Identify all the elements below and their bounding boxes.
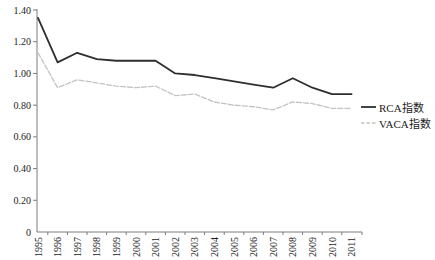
x-tick-label: 2003 <box>189 237 200 257</box>
x-tick-label: 2006 <box>248 237 259 257</box>
chart-legend: RCA指数 VACA指数 <box>361 99 431 130</box>
legend-item-rca: RCA指数 <box>361 99 431 114</box>
x-tick-label: 2009 <box>307 237 318 257</box>
y-tick-label: 0.60 <box>14 131 32 142</box>
y-tick-label: 1.40 <box>14 5 32 16</box>
x-tick-label: 2011 <box>346 237 357 257</box>
legend-item-vaca: VACA指数 <box>361 115 431 130</box>
x-tick-label: 2000 <box>131 237 142 257</box>
x-tick-label: 1997 <box>72 237 83 257</box>
x-tick-label: 2004 <box>209 237 220 257</box>
x-tick-label: 2010 <box>327 237 338 257</box>
y-tick-label: 0.80 <box>14 100 32 111</box>
y-tick-label: 1.20 <box>14 36 32 47</box>
vaca-series-line <box>38 53 352 110</box>
x-tick-label: 2005 <box>229 237 240 257</box>
line-chart-canvas: 1.401.201.000.800.600.400.20019951996199… <box>0 0 435 260</box>
y-tick-label: 1.00 <box>14 68 32 79</box>
x-tick-label: 1998 <box>91 237 102 257</box>
rca-series-line <box>38 18 352 94</box>
y-tick-label: 0 <box>26 227 31 238</box>
x-tick-label: 1999 <box>111 237 122 257</box>
vaca-line-swatch-icon <box>361 120 377 126</box>
x-tick-label: 2001 <box>150 237 161 257</box>
x-tick-label: 1996 <box>52 237 63 257</box>
y-tick-label: 0.20 <box>14 195 32 206</box>
x-tick-label: 1995 <box>33 237 44 257</box>
chart-figure: 1.401.201.000.800.600.400.20019951996199… <box>0 0 435 260</box>
legend-label-vaca: VACA指数 <box>379 115 431 131</box>
x-tick-label: 2002 <box>170 237 181 257</box>
y-tick-label: 0.40 <box>14 163 32 174</box>
rca-line-swatch-icon <box>361 104 377 110</box>
x-tick-label: 2008 <box>287 237 298 257</box>
x-tick-label: 2007 <box>268 237 279 257</box>
legend-label-rca: RCA指数 <box>379 99 424 115</box>
